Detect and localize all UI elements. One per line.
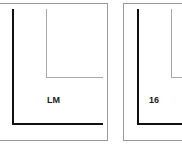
panel-left: LM xyxy=(0,3,108,141)
inner-horizontal-line xyxy=(171,77,182,78)
panel-label: LM xyxy=(47,95,60,105)
outer-vertical-line xyxy=(12,9,14,125)
panel-label: 16 xyxy=(149,95,159,105)
inner-vertical-line xyxy=(171,9,172,78)
panel-right: 16 xyxy=(123,3,182,141)
outer-horizontal-line xyxy=(137,123,182,125)
inner-vertical-line xyxy=(46,9,47,78)
inner-horizontal-line xyxy=(46,77,103,78)
outer-horizontal-line xyxy=(12,123,103,125)
outer-vertical-line xyxy=(137,9,139,125)
